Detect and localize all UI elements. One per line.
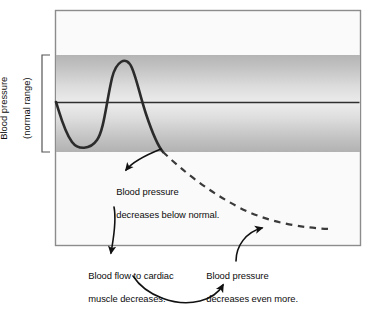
annotation-bp-decreases-more: Blood pressure decreases even more. bbox=[196, 258, 298, 316]
diagram-canvas bbox=[0, 0, 370, 316]
normal-range-band bbox=[56, 55, 360, 152]
y-axis-label-line1: Blood pressure bbox=[0, 77, 10, 140]
annotation-bp-more-line2: decreases even more. bbox=[206, 293, 298, 304]
annotation-blood-flow-decreases: Blood flow to cardiac muscle decreases. bbox=[78, 258, 174, 316]
y-axis-label: Blood pressure (normal range) bbox=[0, 77, 43, 156]
y-axis-label-line2: (normal range) bbox=[21, 77, 32, 138]
annotation-bp-more-line1: Blood pressure bbox=[206, 270, 268, 281]
annotation-blood-flow-line1: Blood flow to cardiac bbox=[88, 270, 173, 281]
annotation-blood-flow-line2: muscle decreases. bbox=[88, 293, 165, 304]
y-axis-label-wrapper: Blood pressure (normal range) bbox=[0, 88, 76, 112]
annotation-bp-below-normal-line2: decreases below normal. bbox=[116, 209, 219, 220]
annotation-bp-below-normal-line1: Blood pressure bbox=[116, 186, 178, 197]
annotation-bp-below-normal: Blood pressure decreases below normal. bbox=[106, 174, 219, 232]
figure-root: Blood pressure (normal range) Blood pres… bbox=[0, 0, 370, 316]
